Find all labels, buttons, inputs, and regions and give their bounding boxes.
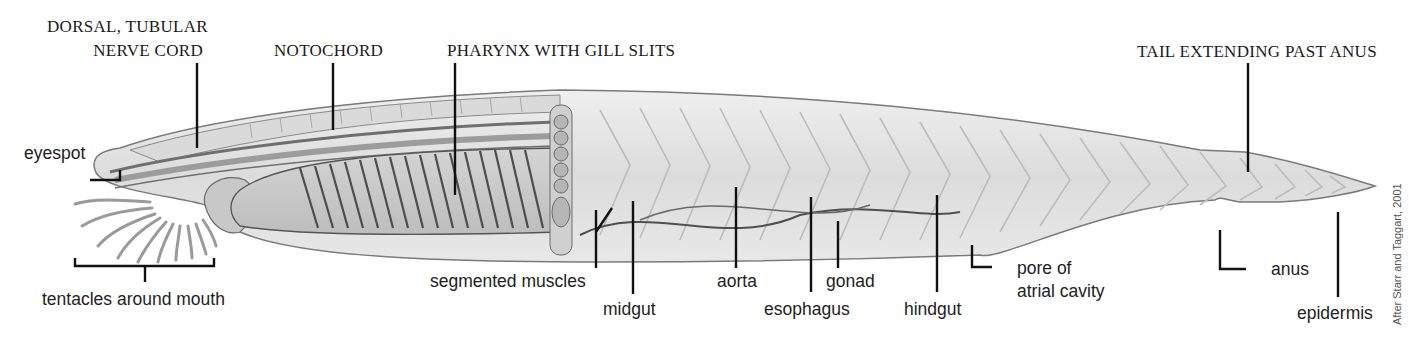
tentacles <box>75 200 216 262</box>
hindgut-label: hindgut <box>904 299 961 319</box>
image-credit: After Starr and Taggart, 2001 <box>1391 183 1403 325</box>
pharynx-label: PHARYNX WITH GILL SLITS <box>447 41 675 61</box>
gonad-label: gonad <box>826 271 875 291</box>
nerve-cord-label: DORSAL, TUBULAR NERVE CORD <box>47 17 203 61</box>
anus-label: anus <box>1271 259 1309 279</box>
nerve-cord-label-line2: NERVE CORD <box>47 41 203 61</box>
tail-label: TAIL EXTENDING PAST ANUS <box>1137 42 1377 62</box>
tentacles-label: tentacles around mouth <box>42 289 225 309</box>
atrial-pore-label: pore of atrial cavity <box>1017 258 1105 301</box>
eyespot-label: eyespot <box>24 143 85 163</box>
lancelet-diagram: DORSAL, TUBULAR NERVE CORD NOTOCHORD PHA… <box>0 0 1409 344</box>
segmented-muscles-label: segmented muscles <box>430 271 586 291</box>
atrial-pore-label-line1: pore of <box>1017 258 1105 278</box>
notochord-label: NOTOCHORD <box>274 41 383 61</box>
atrial-pore-label-line2: atrial cavity <box>1017 281 1105 301</box>
midgut-label: midgut <box>603 299 656 319</box>
section-gonads <box>550 105 572 255</box>
aorta-label: aorta <box>717 271 757 291</box>
epidermis-label: epidermis <box>1297 303 1373 323</box>
esophagus-label: esophagus <box>764 299 850 319</box>
nerve-cord-label-line1: DORSAL, TUBULAR <box>47 17 203 37</box>
